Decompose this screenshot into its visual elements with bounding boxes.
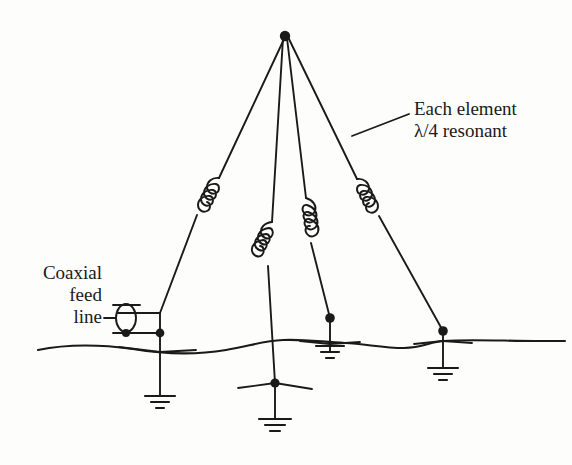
- element-center-left: [252, 38, 283, 418]
- element-left-lower-wire: [160, 215, 197, 313]
- ground-symbol-right: [428, 368, 458, 380]
- coaxial-label-line-2: feed: [6, 284, 102, 306]
- element-center-right-loading-coil: [303, 198, 319, 236]
- element-center-left-upper-wire: [272, 38, 283, 222]
- radial-center-a: [238, 383, 275, 388]
- radial-center-b: [275, 383, 312, 389]
- coaxial-label-line-3: line: [6, 306, 102, 328]
- element-left: [118, 37, 285, 395]
- element-right-lower-wire: [379, 216, 443, 331]
- each-element-label-line-1: Each element: [414, 98, 517, 120]
- antenna-diagram-figure: Coaxial feed line Each element λ/4 reson…: [0, 0, 572, 465]
- radial-right-b: [443, 341, 472, 343]
- element-left-loading-coil: [198, 178, 219, 212]
- element-center-right-base-dot: [325, 313, 335, 323]
- element-center-left-lower-wire: [268, 266, 275, 383]
- radial-left-a: [119, 347, 160, 352]
- ground-symbol-left: [145, 396, 175, 408]
- element-left-base-dot: [156, 329, 165, 338]
- element-center-left-base-dot: [270, 378, 279, 387]
- element-center-right: [287, 38, 330, 352]
- element-right-upper-wire: [288, 37, 357, 179]
- coaxial-feed-line-label: Coaxial feed line: [6, 262, 102, 328]
- each-element-label: Each element λ/4 resonant: [414, 98, 517, 142]
- element-center-left-loading-coil: [252, 222, 273, 256]
- radial-left-b: [160, 350, 196, 352]
- element-right-loading-coil: [357, 179, 378, 213]
- element-right: [288, 37, 443, 368]
- junction-dots: [122, 31, 448, 388]
- ground-radial-spikes: [119, 341, 472, 389]
- coaxial-label-line-1: Coaxial: [6, 262, 102, 284]
- feed-source-ellipse: [116, 304, 136, 332]
- each-element-label-line-2: λ/4 resonant: [414, 120, 517, 142]
- each-element-leader-line: [352, 114, 409, 136]
- element-right-base-dot: [438, 326, 448, 336]
- element-center-right-lower-wire: [311, 243, 330, 318]
- ground-symbols: [145, 346, 458, 431]
- diagram-canvas: [0, 0, 572, 465]
- apex-junction-dot: [280, 31, 290, 41]
- feed-bottom-dot: [122, 329, 130, 337]
- ground-symbol-center: [259, 419, 291, 431]
- coaxial-feed-symbol: [113, 304, 160, 333]
- element-center-right-upper-wire: [287, 38, 306, 198]
